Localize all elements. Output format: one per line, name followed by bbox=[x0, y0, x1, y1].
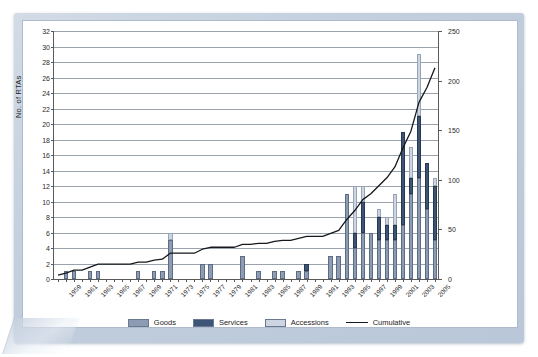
x-tick-mark bbox=[130, 279, 131, 282]
x-tick-mark bbox=[202, 279, 203, 282]
x-tick-mark bbox=[307, 279, 308, 282]
y-tick-label: 20 bbox=[42, 121, 50, 128]
y-tick-mark bbox=[51, 279, 54, 280]
y2-tick-mark bbox=[439, 229, 442, 230]
y-tick-label: 6 bbox=[46, 229, 50, 236]
x-tick-mark bbox=[323, 279, 324, 282]
x-tick-mark bbox=[58, 279, 59, 282]
legend-item-cumulative[interactable]: Cumulative bbox=[346, 318, 411, 327]
x-tick-mark bbox=[379, 279, 380, 282]
x-tick-mark bbox=[259, 279, 260, 282]
x-tick-mark bbox=[226, 279, 227, 282]
x-tick-mark bbox=[387, 279, 388, 282]
x-tick-mark bbox=[146, 279, 147, 282]
y-axis-right-spine bbox=[438, 31, 439, 280]
x-tick-mark bbox=[427, 279, 428, 282]
legend-item-accessions[interactable]: Accessions bbox=[265, 318, 329, 327]
x-tick-mark bbox=[339, 279, 340, 282]
x-tick-mark bbox=[98, 279, 99, 282]
legend-swatch bbox=[265, 319, 286, 327]
y2-tick-label: 0 bbox=[448, 276, 452, 283]
x-tick-mark bbox=[315, 279, 316, 282]
y-tick-label: 8 bbox=[46, 214, 50, 221]
x-tick-mark bbox=[283, 279, 284, 282]
y-tick-label: 12 bbox=[42, 183, 50, 190]
x-tick-mark bbox=[242, 279, 243, 282]
x-tick-mark bbox=[74, 279, 75, 282]
y2-tick-label: 100 bbox=[448, 176, 460, 183]
x-tick-mark bbox=[122, 279, 123, 282]
x-tick-mark bbox=[154, 279, 155, 282]
x-tick-mark bbox=[347, 279, 348, 282]
x-tick-mark bbox=[355, 279, 356, 282]
chart-page: No. of RTAs 0246810121416182022242628303… bbox=[0, 0, 538, 357]
x-tick-mark bbox=[218, 279, 219, 282]
cumulative-line bbox=[54, 31, 439, 279]
y-axis-label: No. of RTAs bbox=[14, 76, 23, 118]
legend-line-marker bbox=[346, 322, 368, 323]
x-tick-mark bbox=[299, 279, 300, 282]
y-tick-label: 26 bbox=[42, 74, 50, 81]
y2-tick-label: 150 bbox=[448, 127, 460, 134]
y-tick-label: 4 bbox=[46, 245, 50, 252]
y-tick-label: 30 bbox=[42, 43, 50, 50]
y-tick-label: 14 bbox=[42, 167, 50, 174]
x-tick-mark bbox=[371, 279, 372, 282]
y-tick-label: 16 bbox=[42, 152, 50, 159]
x-tick-mark bbox=[363, 279, 364, 282]
plot-area: 02468101214161820222426283032 0501001502… bbox=[53, 31, 439, 280]
x-tick-mark bbox=[106, 279, 107, 282]
legend-label: Goods bbox=[154, 318, 176, 327]
y-tick-label: 24 bbox=[42, 90, 50, 97]
x-tick-mark bbox=[395, 279, 396, 282]
legend-swatch bbox=[193, 319, 214, 327]
chart-legend: GoodsServicesAccessionsCumulative bbox=[0, 318, 538, 327]
y2-tick-mark bbox=[439, 31, 442, 32]
x-tick-mark bbox=[291, 279, 292, 282]
legend-swatch bbox=[128, 319, 149, 327]
x-tick-mark bbox=[210, 279, 211, 282]
legend-label: Cumulative bbox=[373, 318, 411, 327]
legend-item-goods[interactable]: Goods bbox=[128, 318, 176, 327]
y-tick-label: 18 bbox=[42, 136, 50, 143]
x-tick-mark bbox=[331, 279, 332, 282]
x-tick-mark bbox=[435, 279, 436, 282]
x-tick-mark bbox=[234, 279, 235, 282]
y-tick-label: 22 bbox=[42, 105, 50, 112]
y-tick-label: 32 bbox=[42, 28, 50, 35]
x-tick-mark bbox=[403, 279, 404, 282]
x-tick-mark bbox=[114, 279, 115, 282]
y2-tick-mark bbox=[439, 130, 442, 131]
x-tick-mark bbox=[251, 279, 252, 282]
x-tick-mark bbox=[186, 279, 187, 282]
y2-tick-label: 50 bbox=[448, 226, 456, 233]
y2-tick-mark bbox=[439, 279, 442, 280]
legend-label: Accessions bbox=[291, 318, 329, 327]
legend-label: Services bbox=[219, 318, 248, 327]
y2-tick-mark bbox=[439, 81, 442, 82]
x-tick-mark bbox=[138, 279, 139, 282]
legend-item-services[interactable]: Services bbox=[193, 318, 248, 327]
y2-tick-label: 250 bbox=[448, 28, 460, 35]
y2-tick-mark bbox=[439, 180, 442, 181]
y2-tick-label: 200 bbox=[448, 77, 460, 84]
x-tick-mark bbox=[162, 279, 163, 282]
x-tick-mark bbox=[66, 279, 67, 282]
x-tick-mark bbox=[82, 279, 83, 282]
x-tick-mark bbox=[170, 279, 171, 282]
x-tick-mark bbox=[411, 279, 412, 282]
y-tick-label: 2 bbox=[46, 260, 50, 267]
x-tick-mark bbox=[419, 279, 420, 282]
y-tick-label: 0 bbox=[46, 276, 50, 283]
x-tick-mark bbox=[178, 279, 179, 282]
x-tick-mark bbox=[275, 279, 276, 282]
x-tick-mark bbox=[90, 279, 91, 282]
x-tick-mark bbox=[267, 279, 268, 282]
y-tick-label: 28 bbox=[42, 59, 50, 66]
y-tick-label: 10 bbox=[42, 198, 50, 205]
x-tick-mark bbox=[194, 279, 195, 282]
